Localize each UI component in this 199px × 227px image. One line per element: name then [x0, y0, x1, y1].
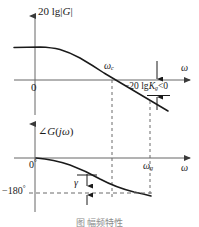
magnitude-panel [14, 16, 190, 200]
magnitude-x-axis-label: ω [181, 63, 188, 73]
phase-x-axis-label: ω [181, 163, 188, 173]
bode-plot-canvas [0, 0, 199, 227]
omega-g-label: ωg [143, 161, 153, 172]
phase-y-axis-label: ∠G(jω) [38, 126, 73, 137]
figure-caption: 图 幅频特性 [0, 216, 199, 227]
phase-minus180-label: −180° [2, 186, 26, 196]
phase-zero-degree-label: 0° [29, 160, 37, 170]
phase-margin-gamma-label: γ [74, 178, 78, 188]
bode-plot-figure: 20 lg|G| 0 ωc ω −20 lgKg<0 ∠G(jω) 0° −18… [0, 0, 199, 227]
omega-c-label: ωc [104, 61, 114, 72]
magnitude-origin-label: 0 [31, 82, 37, 93]
phase-curve [36, 158, 151, 196]
phase-panel [14, 124, 190, 212]
gain-margin-annotation: −20 lgKg<0 [124, 82, 168, 92]
magnitude-y-axis-label: 20 lg|G| [38, 6, 73, 17]
magnitude-curve [14, 47, 168, 111]
